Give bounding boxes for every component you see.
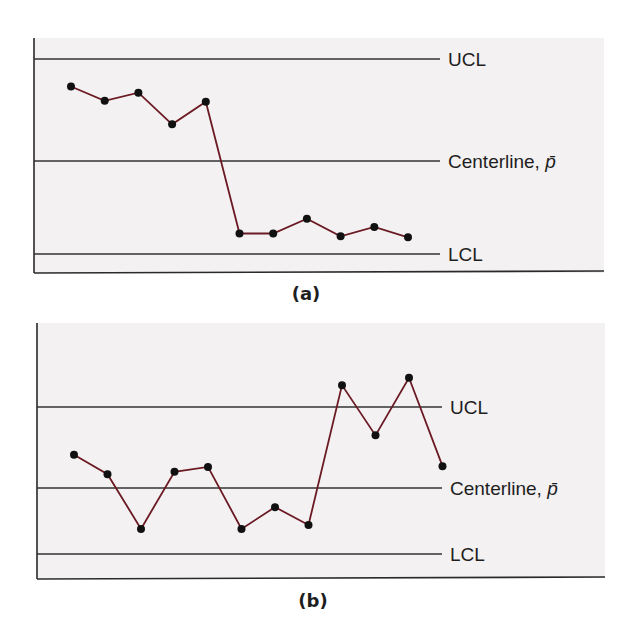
data-point-marker (204, 463, 212, 471)
data-point-marker (303, 215, 311, 223)
chart-a-caption: (a) (292, 283, 321, 304)
data-point-marker (269, 230, 277, 238)
chart-a: UCL Centerline, p̄ LCL (a) (34, 38, 604, 304)
data-point-marker (238, 525, 246, 533)
chart-b-lcl-label: LCL (450, 544, 485, 565)
chart-b-background (36, 323, 605, 578)
data-point-marker (370, 223, 378, 231)
data-point-marker (171, 468, 179, 476)
data-point-marker (104, 470, 112, 478)
chart-b: UCL Centerline, p̄ LCL (b) (36, 323, 605, 611)
data-point-marker (372, 431, 380, 439)
data-point-marker (134, 89, 142, 97)
data-point-marker (337, 232, 345, 240)
data-point-marker (67, 83, 75, 91)
data-point-marker (137, 525, 145, 533)
p-bar-symbol: p̄ (544, 151, 556, 172)
data-point-marker (70, 451, 78, 459)
data-point-marker (305, 521, 313, 529)
data-point-marker (404, 233, 412, 241)
chart-a-lcl-label: LCL (448, 244, 483, 265)
data-point-marker (168, 120, 176, 128)
data-point-marker (101, 97, 109, 105)
chart-b-caption: (b) (298, 590, 327, 611)
data-point-marker (439, 462, 447, 470)
data-point-marker (405, 374, 413, 382)
data-point-marker (236, 230, 244, 238)
control-charts-figure: UCL Centerline, p̄ LCL (a) UCL Centerlin… (0, 0, 631, 638)
data-point-marker (271, 503, 279, 511)
p-bar-symbol: p̄ (546, 478, 558, 499)
data-point-marker (338, 381, 346, 389)
data-point-marker (202, 98, 210, 106)
chart-b-ucl-label: UCL (450, 397, 488, 418)
chart-b-centerline-label: Centerline, p̄ (450, 478, 558, 499)
chart-a-ucl-label: UCL (448, 49, 486, 70)
chart-a-centerline-label: Centerline, p̄ (448, 151, 556, 172)
